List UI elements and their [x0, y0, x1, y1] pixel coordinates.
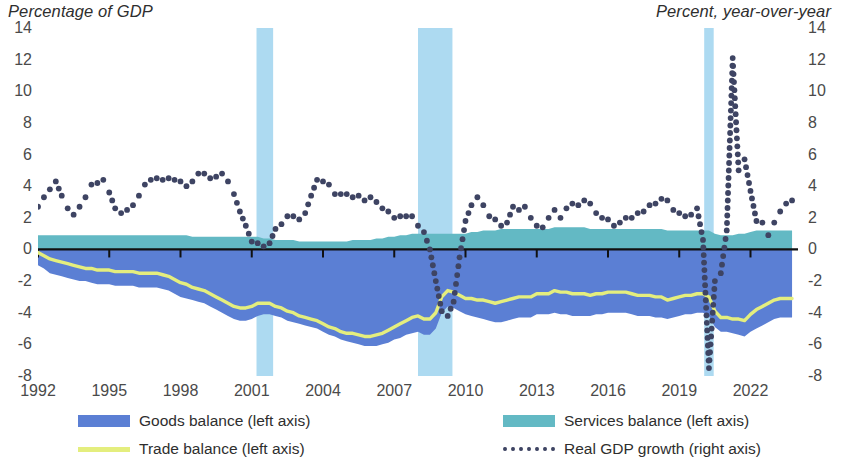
gdp-dot	[53, 179, 59, 185]
gdp-dot	[709, 318, 715, 324]
gdp-dot	[77, 204, 83, 210]
gdp-dot	[421, 229, 427, 235]
gdp-dot	[457, 254, 463, 260]
gdp-dot	[427, 247, 433, 253]
x-axis-tick-labels: 1992199519982001200420072010201320162019…	[0, 382, 841, 408]
gdp-dot	[708, 334, 714, 340]
gdp-dot	[237, 209, 243, 215]
right-y-tick: 2	[808, 210, 838, 226]
gdp-dot	[379, 205, 385, 211]
gdp-dot	[605, 217, 611, 223]
right-y-tick: 12	[808, 52, 838, 68]
gdp-dot	[727, 123, 733, 129]
gdp-dot	[510, 204, 516, 210]
left-y-tick: 6	[4, 147, 32, 163]
right-y-tick: 14	[808, 20, 838, 36]
gdp-dot	[703, 290, 709, 296]
gdp-dot	[581, 198, 587, 204]
gdp-dot	[445, 313, 451, 319]
x-tick-2022: 2022	[733, 382, 769, 400]
gdp-dot	[629, 215, 635, 221]
gdp-dot	[558, 215, 564, 221]
gdp-dot	[225, 179, 231, 185]
gdp-dot	[356, 193, 362, 199]
x-tick-1998: 1998	[163, 382, 199, 400]
gdp-dot	[759, 220, 765, 226]
gdp-dot	[731, 87, 737, 93]
left-y-tick: 0	[4, 241, 32, 257]
legend-item-trade-balance[interactable]: Trade balance (left axis)	[78, 440, 305, 458]
gdp-dot	[219, 171, 225, 177]
gdp-dot	[47, 186, 53, 192]
plot-area	[38, 28, 798, 376]
gdp-dot	[702, 267, 708, 273]
trade-balance-line-swatch-icon	[78, 447, 130, 452]
gdp-dot	[735, 151, 741, 157]
gdp-dot	[201, 171, 207, 177]
gdp-dot	[368, 194, 374, 200]
gdp-dot	[504, 220, 510, 226]
gdp-dot	[724, 213, 730, 219]
gdp-dot	[270, 233, 276, 239]
legend-item-real-gdp-growth[interactable]: Real GDP growth (right axis)	[503, 440, 761, 458]
gdp-dot	[635, 210, 641, 216]
gdp-dot	[38, 204, 41, 210]
gdp-dot	[311, 185, 317, 191]
gdp-dot	[448, 306, 454, 312]
gdp-dot	[460, 236, 466, 242]
gdp-dot	[434, 286, 440, 292]
gdp-dot	[83, 194, 89, 200]
gdp-dot	[431, 270, 437, 276]
gdp-dot	[711, 286, 717, 292]
gdp-dot	[480, 202, 486, 208]
legend-item-services-balance[interactable]: Services balance (left axis)	[503, 412, 749, 430]
x-tick-2001: 2001	[234, 382, 270, 400]
gdp-dot	[439, 308, 445, 314]
gdp-dot	[696, 213, 702, 219]
gdp-dot	[712, 278, 718, 284]
gdp-dot	[409, 213, 415, 219]
gdp-dot	[688, 212, 694, 218]
gdp-dot	[700, 237, 706, 243]
gdp-dot	[701, 260, 707, 266]
gdp-dot	[734, 143, 740, 149]
gdp-dot	[166, 175, 172, 181]
gdp-dot	[320, 179, 326, 185]
gdp-dot	[492, 217, 498, 223]
gdp-dot	[124, 207, 130, 213]
gdp-dot	[142, 182, 148, 188]
gdp-dot	[433, 278, 439, 284]
gdp-dot	[207, 175, 213, 181]
gdp-dot	[94, 180, 100, 186]
gdp-dot	[748, 188, 754, 194]
gdp-dot	[728, 115, 734, 121]
gdp-dot	[112, 205, 118, 211]
gdp-dot	[704, 312, 710, 318]
gdp-dot	[751, 203, 757, 209]
gdp-dot	[706, 365, 712, 371]
gdp-dot	[261, 243, 267, 249]
goods-balance-swatch-icon	[78, 415, 130, 427]
gdp-dot	[728, 108, 734, 114]
legend-label: Trade balance (left axis)	[139, 440, 305, 458]
gdp-dot	[546, 215, 552, 221]
gdp-dot	[743, 164, 749, 170]
gdp-dot	[474, 194, 480, 200]
gdp-dot	[528, 215, 534, 221]
gdp-dot	[308, 193, 314, 199]
chart-figure: Percentage of GDP Percent, year-over-yea…	[0, 0, 841, 465]
legend-label: Goods balance (left axis)	[139, 412, 310, 430]
right-y-tick: -2	[808, 273, 838, 289]
left-y-tick: -6	[4, 336, 32, 352]
left-y-tick: 8	[4, 115, 32, 131]
gdp-dot	[437, 301, 443, 307]
gdp-dot	[195, 171, 201, 177]
gdp-dot	[724, 220, 730, 226]
gdp-dot	[160, 177, 166, 183]
gdp-dot	[415, 223, 421, 229]
right-y-tick: 0	[808, 241, 838, 257]
gdp-dot	[273, 226, 279, 232]
gdp-dot	[682, 213, 688, 219]
legend-item-goods-balance[interactable]: Goods balance (left axis)	[78, 412, 310, 430]
gdp-dot	[231, 191, 237, 197]
